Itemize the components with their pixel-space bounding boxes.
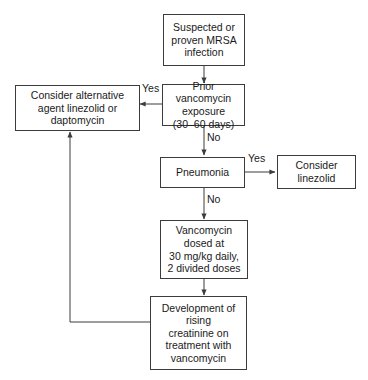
node-prior-vancomycin-exposure-label: Prior vancomycin exposure (30–60 days) — [166, 80, 241, 130]
node-pneumonia: Pneumonia — [160, 157, 245, 188]
node-pneumonia-label: Pneumonia — [176, 166, 229, 179]
node-suspected-mrsa-label: Suspected or proven MRSA infection — [171, 21, 236, 59]
flowchart-canvas: Suspected or proven MRSA infection Prior… — [0, 0, 368, 380]
node-rising-creatinine-label: Development of rising creatinine on trea… — [162, 302, 236, 365]
node-consider-linezolid: Consider linezolid — [277, 155, 356, 189]
node-vancomycin-dosing: Vancomycin dosed at 30 mg/kg daily, 2 di… — [160, 220, 248, 279]
node-suspected-mrsa: Suspected or proven MRSA infection — [163, 14, 245, 66]
node-consider-alternative-agent-label: Consider alternative agent linezolid or … — [31, 89, 124, 127]
edge-label-pneumonia-no: No — [207, 193, 220, 205]
edge-label-exposure-yes: Yes — [142, 82, 159, 94]
node-rising-creatinine: Development of rising creatinine on trea… — [150, 296, 247, 370]
edge-label-pneumonia-yes: Yes — [248, 152, 265, 164]
node-consider-linezolid-label: Consider linezolid — [295, 159, 337, 184]
edge-label-exposure-no: No — [207, 131, 220, 143]
node-consider-alternative-agent: Consider alternative agent linezolid or … — [15, 85, 140, 131]
connector-creatinine-to-alternative-feedback — [70, 132, 150, 322]
node-vancomycin-dosing-label: Vancomycin dosed at 30 mg/kg daily, 2 di… — [168, 224, 241, 274]
node-prior-vancomycin-exposure: Prior vancomycin exposure (30–60 days) — [162, 84, 245, 126]
